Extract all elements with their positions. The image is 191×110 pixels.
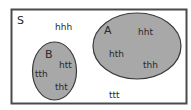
universe-label: S: [17, 14, 24, 27]
outcome-hht: hht: [138, 27, 153, 37]
outcome-thh: thh: [143, 60, 158, 70]
outcome-hhh: hhh: [55, 22, 72, 32]
outcome-tht: tht: [55, 82, 68, 92]
set-a-label: A: [104, 24, 112, 37]
set-b-label: B: [45, 48, 53, 61]
venn-diagram: S hhh A hht hth thh B htt tth tht ttt: [0, 0, 191, 110]
outcome-tth: tth: [35, 69, 48, 79]
outcome-ttt: ttt: [109, 90, 120, 100]
outcome-htt: htt: [59, 60, 72, 70]
outcome-hth: hth: [109, 49, 124, 59]
set-a-ellipse: [93, 13, 181, 79]
